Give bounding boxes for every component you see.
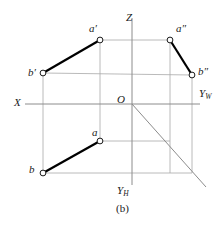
- axis-label-z: Z: [126, 12, 132, 23]
- point-label-b-horizontal-base: b: [29, 163, 35, 175]
- axis-label-yh: YH: [117, 185, 129, 198]
- point-label-b-prime: b′: [28, 67, 36, 78]
- segment-ab-frontal: [43, 40, 100, 73]
- segment-ab-profile: [170, 40, 192, 75]
- projection-drawing-canvas: [0, 0, 223, 225]
- point-label-a-prime-prime: ′: [95, 22, 97, 34]
- projection-figure: a′a″b′b″ab X Z O YW YH (b): [0, 0, 223, 225]
- segment-ab-horizontal: [43, 141, 100, 173]
- point-marker-a-horizontal: [97, 138, 103, 144]
- axis-line-y45: [132, 104, 206, 187]
- axis-label-yw: YW: [199, 88, 212, 101]
- axis-label-x: X: [14, 97, 21, 108]
- point-marker-b-prime: [40, 70, 46, 76]
- point-label-a-double-prime: a″: [176, 23, 186, 34]
- point-label-a-horizontal: a: [92, 127, 98, 138]
- point-label-a-prime: a′: [89, 23, 97, 34]
- axis-label-origin: O: [117, 94, 125, 105]
- axes-group: [25, 18, 206, 187]
- point-marker-b-double-prime: [189, 72, 195, 78]
- axis-label-yh-subscript: H: [123, 189, 129, 198]
- point-label-b-double-prime-prime: ″: [204, 65, 209, 77]
- point-label-a-horizontal-base: a: [92, 126, 98, 138]
- figure-caption: (b): [116, 203, 129, 214]
- point-label-b-double-prime: b″: [198, 66, 208, 77]
- axis-label-yw-subscript: W: [205, 92, 211, 101]
- point-label-b-prime-prime: ′: [34, 66, 36, 78]
- point-label-a-double-prime-prime: ″: [182, 22, 187, 34]
- point-label-b-horizontal: b: [29, 164, 35, 175]
- point-marker-a-double-prime: [167, 37, 173, 43]
- point-marker-a-prime: [97, 37, 103, 43]
- point-marker-b-horizontal: [40, 170, 46, 176]
- projection-points-group: [40, 37, 195, 176]
